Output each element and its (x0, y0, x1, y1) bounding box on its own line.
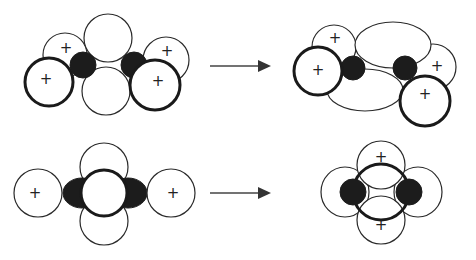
bottom-left-panel: + + (14, 143, 195, 245)
plus-sign: + (419, 85, 432, 103)
plus-sign: + (431, 57, 444, 75)
top-right-panel: + + + + (294, 22, 456, 126)
plus-sign: + (312, 61, 325, 79)
plus-sign: + (167, 184, 180, 202)
plus-sign: + (329, 29, 342, 47)
plus-sign: + (375, 148, 388, 166)
top-left-panel: + + + + (25, 14, 189, 115)
plus-sign: + (40, 70, 53, 88)
plus-sign: + (152, 72, 165, 90)
top-elliptical-lobe (355, 22, 431, 68)
left-carbon-lobe (70, 52, 96, 78)
left-dark-lobe (340, 179, 366, 205)
top-reaction-arrow (210, 60, 271, 72)
arrow-head-icon (258, 187, 271, 199)
arrow-head-icon (258, 60, 271, 72)
left-carbon-lobe (341, 56, 365, 80)
plus-sign: + (375, 216, 388, 234)
bottom-right-panel: + + (321, 141, 442, 244)
plus-sign: + (29, 184, 42, 202)
bottom-reaction-arrow (210, 187, 271, 199)
central-ring (81, 170, 127, 216)
plus-sign: + (60, 39, 73, 57)
orbital-diagram: + + + + + + + + + + (0, 0, 476, 260)
plus-sign: + (161, 42, 174, 60)
right-dark-lobe (396, 179, 422, 205)
right-carbon-lobe (393, 56, 417, 80)
